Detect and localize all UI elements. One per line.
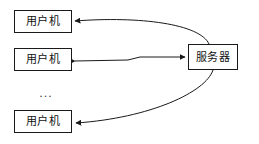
diagram-canvas: 用户机 用户机 ... 用户机 服务器 xyxy=(0,0,259,144)
server-node[interactable]: 服务器 xyxy=(188,44,238,70)
edge-server-to-client-1 xyxy=(75,20,209,44)
client-node-1[interactable]: 用户机 xyxy=(14,10,72,33)
ellipsis-marker: ... xyxy=(34,86,58,100)
server-node-label: 服务器 xyxy=(196,52,231,63)
edge-server-to-client-3 xyxy=(76,70,213,123)
ellipsis-label: ... xyxy=(39,88,53,99)
edge-client-2-to-server xyxy=(75,57,185,61)
client-node-1-label: 用户机 xyxy=(26,16,61,27)
client-node-3-label: 用户机 xyxy=(26,116,61,127)
client-node-2[interactable]: 用户机 xyxy=(14,48,72,71)
client-node-2-label: 用户机 xyxy=(26,54,61,65)
client-node-3[interactable]: 用户机 xyxy=(14,110,72,133)
